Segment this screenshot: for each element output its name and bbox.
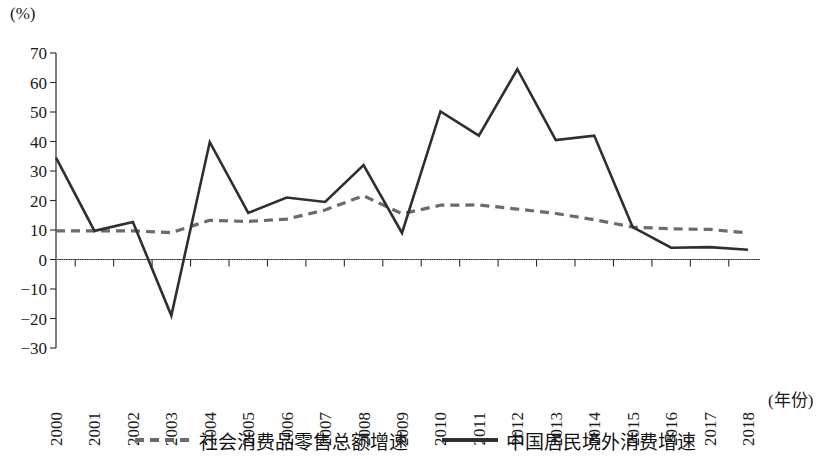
y-tick-label: 70: [30, 44, 47, 63]
y-tick-label: 60: [30, 74, 47, 93]
y-tick-label: −10: [20, 280, 47, 299]
x-tick-mark-group: [75, 260, 729, 267]
solid-line-swatch-icon: [442, 438, 498, 441]
series-line-overseas-consumption-growth: [56, 69, 748, 315]
y-tick-label: 50: [30, 103, 47, 122]
legend-label-overseas-consumption-growth: 中国居民境外消费增速: [506, 427, 696, 454]
dashed-line-swatch-icon: [135, 438, 191, 443]
y-tick-label: 10: [30, 221, 47, 240]
legend-label-retail-sales-growth: 社会消费品零售总额增速: [199, 427, 408, 454]
y-tick-label: 40: [30, 133, 47, 152]
y-tick-mark-group: [50, 53, 56, 348]
y-tick-label: 0: [39, 251, 48, 270]
y-tick-label-group: 706050403020100−10−20−30: [20, 44, 47, 358]
chart-figure: (%) 706050403020100−10−20−30 20002001200…: [0, 0, 831, 459]
legend-item-overseas-consumption-growth: 中国居民境外消费增速: [442, 427, 696, 454]
y-tick-label: 20: [30, 192, 47, 211]
chart-legend: 社会消费品零售总额增速 中国居民境外消费增速: [0, 421, 831, 459]
y-tick-label: −20: [20, 310, 47, 329]
series-line-retail-sales-growth: [56, 196, 748, 233]
chart-plot-area: 706050403020100−10−20−30 200020012002200…: [0, 0, 831, 459]
y-tick-label: 30: [30, 162, 47, 181]
x-axis-caption: (年份): [768, 386, 813, 411]
y-tick-label: −30: [20, 339, 47, 358]
legend-item-retail-sales-growth: 社会消费品零售总额增速: [135, 427, 408, 454]
